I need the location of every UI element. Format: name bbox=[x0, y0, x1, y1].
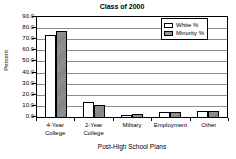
bar bbox=[159, 112, 170, 117]
y-axis-tick-label: 70.0 bbox=[10, 35, 34, 41]
y-axis-tick-label: 90.0 bbox=[10, 13, 34, 19]
x-axis-tick-label: Employment bbox=[151, 121, 189, 143]
bar bbox=[56, 31, 67, 117]
bar bbox=[208, 111, 219, 117]
x-axis-tick-label: Military bbox=[113, 121, 151, 143]
bar bbox=[45, 35, 56, 117]
y-axis-tick-label: 60.0 bbox=[10, 46, 34, 52]
bar bbox=[170, 112, 181, 117]
bar-group bbox=[121, 17, 143, 117]
y-axis-tick-label: 20.0 bbox=[10, 91, 34, 97]
legend-label-minority: Minority % bbox=[176, 30, 204, 37]
legend-swatch-white-icon bbox=[164, 23, 173, 28]
legend-label-white: White % bbox=[176, 22, 198, 29]
y-axis-tick-label: 80.0 bbox=[10, 24, 34, 30]
y-axis-tick-label: 50.0 bbox=[10, 57, 34, 63]
bar bbox=[121, 115, 132, 117]
legend-entry-white: White % bbox=[164, 21, 204, 29]
chart-legend: White % Minority % bbox=[161, 18, 208, 40]
bar bbox=[83, 102, 94, 117]
x-axis-tick-label: Other bbox=[190, 121, 228, 143]
bar-chart: Class of 2000 Percent 90.080.070.060.050… bbox=[0, 0, 236, 159]
x-axis-tick-label: 2-Year College bbox=[74, 121, 112, 143]
y-axis-label: Percent bbox=[3, 38, 10, 84]
bar bbox=[197, 111, 208, 117]
x-axis-tick-mark bbox=[228, 118, 229, 121]
bar bbox=[132, 114, 143, 117]
chart-title: Class of 2000 bbox=[0, 2, 236, 11]
y-axis-tick-label: 40.0 bbox=[10, 69, 34, 75]
y-axis-tick-label: 0.0 bbox=[10, 113, 34, 119]
x-axis-tick-label: 4-Year College bbox=[36, 121, 74, 143]
y-axis-tick-label: 10.0 bbox=[10, 102, 34, 108]
y-axis-tick-labels: 90.080.070.060.050.040.030.020.010.00.0 bbox=[10, 14, 34, 120]
bar bbox=[94, 105, 105, 117]
legend-entry-minority: Minority % bbox=[164, 29, 204, 37]
x-axis-label: Post-High School Plans bbox=[36, 143, 228, 151]
legend-swatch-minority-icon bbox=[164, 31, 173, 36]
bar-group bbox=[45, 17, 67, 117]
y-axis-tick-label: 30.0 bbox=[10, 80, 34, 86]
x-axis-tick-labels: 4-Year College2-Year CollegeMilitaryEmpl… bbox=[36, 121, 228, 143]
bar-group bbox=[83, 17, 105, 117]
